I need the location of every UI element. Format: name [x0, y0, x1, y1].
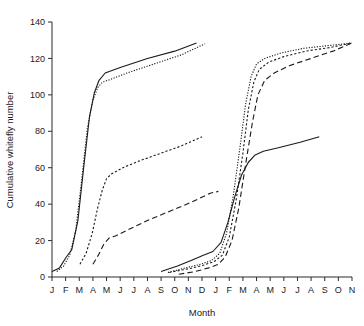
series-line-season1-finedot — [80, 137, 202, 265]
y-tick-label: 40 — [35, 199, 45, 209]
series-line-season1-dashed — [93, 191, 218, 264]
y-tick-label: 140 — [30, 17, 45, 27]
y-axis: 020406080100120140 — [30, 17, 52, 282]
x-tick-label: N — [349, 285, 356, 295]
series-line-season2-dashed — [179, 43, 352, 274]
x-tick-label: M — [266, 285, 274, 295]
x-axis: JFMAMJJASONDJFMAMJJASON — [50, 277, 356, 295]
series-line-season2-solid — [161, 137, 319, 272]
series-group — [52, 43, 352, 274]
y-tick-label: 100 — [30, 90, 45, 100]
x-tick-label: J — [282, 285, 287, 295]
x-tick-label: S — [158, 285, 164, 295]
y-tick-label: 0 — [40, 272, 45, 282]
x-tick-label: J — [50, 285, 55, 295]
series-line-season2-dotted — [168, 43, 352, 273]
x-tick-label: O — [335, 285, 342, 295]
x-tick-label: A — [144, 285, 150, 295]
x-tick-label: F — [227, 285, 233, 295]
series-line-season2-finedot — [169, 43, 352, 273]
x-tick-label: F — [63, 285, 69, 295]
x-tick-label: D — [199, 285, 206, 295]
x-tick-label: A — [90, 285, 96, 295]
x-tick-label: A — [308, 285, 314, 295]
x-tick-label: O — [171, 285, 178, 295]
whitefly-cumulative-chart: 020406080100120140 JFMAMJJASONDJFMAMJJAS… — [0, 0, 364, 326]
y-tick-label: 80 — [35, 126, 45, 136]
x-tick-label: S — [322, 285, 328, 295]
series-line-season1-solid — [52, 43, 197, 272]
x-tick-label: J — [132, 285, 137, 295]
x-tick-group: JFMAMJJASONDJFMAMJJASON — [50, 277, 356, 295]
y-tick-label: 60 — [35, 163, 45, 173]
x-tick-label: M — [103, 285, 111, 295]
x-tick-label: M — [239, 285, 247, 295]
y-tick-label: 120 — [30, 54, 45, 64]
x-tick-label: J — [295, 285, 300, 295]
y-tick-label: 20 — [35, 236, 45, 246]
x-tick-label: J — [213, 285, 218, 295]
x-tick-label: A — [254, 285, 260, 295]
y-tick-group: 020406080100120140 — [30, 17, 52, 282]
chart-svg: 020406080100120140 JFMAMJJASONDJFMAMJJAS… — [0, 0, 364, 326]
x-tick-label: N — [185, 285, 192, 295]
x-tick-label: M — [76, 285, 84, 295]
series-line-season1-dotted — [57, 44, 205, 272]
x-axis-title: Month — [189, 307, 215, 318]
x-tick-label: J — [118, 285, 123, 295]
y-axis-title: Cumulative whitefly number — [4, 92, 15, 209]
